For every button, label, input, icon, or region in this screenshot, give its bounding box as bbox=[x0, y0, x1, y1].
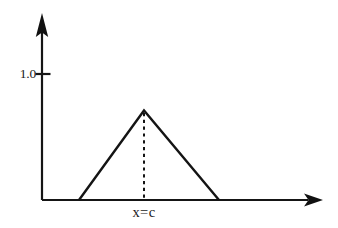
x-axis-label-x-equals-c: x=c bbox=[0, 205, 288, 220]
triangle-outline bbox=[79, 111, 219, 201]
y-axis-tick-label-1.0: 1.0 bbox=[20, 67, 36, 81]
figure-canvas: 1.0 x=c bbox=[0, 0, 338, 228]
triangular-function-plot bbox=[0, 0, 338, 228]
